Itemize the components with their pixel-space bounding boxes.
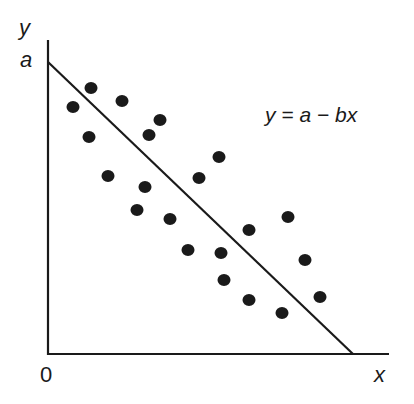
- data-point: [116, 95, 129, 107]
- data-point: [215, 247, 228, 259]
- data-point: [139, 181, 152, 193]
- origin-label: 0: [40, 362, 52, 387]
- data-point: [85, 82, 98, 94]
- data-point: [218, 274, 231, 286]
- data-point: [164, 213, 177, 225]
- data-point: [243, 224, 256, 236]
- y-axis-label: y: [17, 15, 32, 40]
- y-intercept-label: a: [20, 47, 32, 72]
- data-point: [243, 294, 256, 306]
- scatter-chart: y a 0 x y = a − bx: [0, 0, 414, 404]
- data-point: [276, 307, 289, 319]
- x-axis-label: x: [373, 362, 386, 387]
- data-point: [143, 129, 156, 141]
- data-point: [67, 101, 80, 113]
- data-point: [213, 151, 226, 163]
- equation-annotation: y = a − bx: [263, 103, 359, 126]
- data-point: [282, 211, 295, 223]
- data-point: [299, 254, 312, 266]
- data-point: [83, 131, 96, 143]
- data-point: [131, 204, 144, 216]
- data-point: [102, 170, 115, 182]
- data-point: [193, 172, 206, 184]
- data-point: [314, 291, 327, 303]
- data-point: [182, 244, 195, 256]
- data-point: [154, 114, 167, 126]
